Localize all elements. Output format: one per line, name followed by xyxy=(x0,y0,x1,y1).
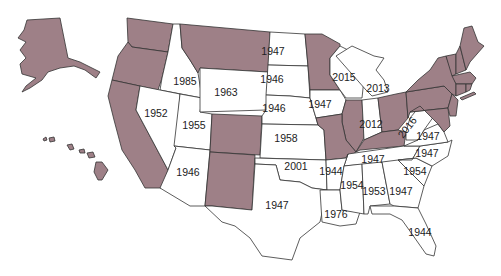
label-va: 1947 xyxy=(416,130,440,142)
label-mi: 2013 xyxy=(366,82,390,94)
label-al: 1953 xyxy=(362,185,386,197)
state-co xyxy=(210,114,262,155)
label-ok: 2001 xyxy=(284,160,308,172)
label-nc: 1947 xyxy=(415,147,439,159)
label-sc: 1954 xyxy=(403,165,427,177)
state-nm xyxy=(205,152,255,210)
state-ri xyxy=(466,84,472,92)
label-wy: 1963 xyxy=(214,86,238,98)
label-ar: 1944 xyxy=(319,165,343,177)
label-tn: 1947 xyxy=(361,153,385,165)
label-ks: 1958 xyxy=(274,132,298,144)
label-in: 2012 xyxy=(359,118,383,130)
label-fl: 1944 xyxy=(408,226,432,238)
label-id: 1985 xyxy=(173,75,197,87)
label-wi: 2015 xyxy=(332,71,356,83)
label-ga: 1947 xyxy=(389,185,413,197)
state-ct xyxy=(456,84,466,96)
label-ms: 1954 xyxy=(340,179,364,191)
label-la: 1976 xyxy=(324,208,348,220)
state-hi xyxy=(43,137,108,180)
us-map: 1985 1952 1955 1946 1963 1947 1946 1946 … xyxy=(0,0,501,276)
label-ia: 1947 xyxy=(308,98,332,110)
label-nd: 1947 xyxy=(261,45,285,57)
label-sd: 1946 xyxy=(260,73,284,85)
label-ut: 1955 xyxy=(182,119,206,131)
label-nv: 1952 xyxy=(144,107,168,119)
label-ne: 1946 xyxy=(262,102,286,114)
label-az: 1946 xyxy=(176,166,200,178)
state-mt xyxy=(180,24,270,73)
label-tx: 1947 xyxy=(265,199,289,211)
state-ak xyxy=(18,18,100,92)
